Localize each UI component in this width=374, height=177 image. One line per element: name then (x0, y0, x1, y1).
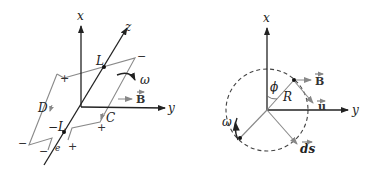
sign-right-lower: + (97, 121, 106, 134)
right-figure: x y ϕ R B u ds ω (222, 11, 359, 156)
z-axis-label: z (124, 20, 132, 34)
sign-top-left: + (60, 72, 69, 85)
x-axis-right-label: x (263, 11, 270, 25)
side-d-label: D (37, 101, 48, 115)
velocity-label: u (318, 100, 326, 113)
y-axis (81, 107, 165, 108)
loop-arrow-d-icon (50, 105, 52, 111)
side-c-label: C (106, 111, 115, 125)
gap-label: e (55, 143, 60, 153)
rotation-arrowhead-icon (231, 121, 240, 132)
y-axis-label: y (167, 101, 175, 115)
figure-canvas: x y z L −L ω B D C e + − − − + + x y (0, 0, 374, 177)
charge-point (292, 78, 296, 82)
y-axis-right-label: y (351, 103, 359, 117)
diagram-svg: x y z L −L ω B D C e + − − − + + x y (0, 0, 374, 177)
radius-line-opposite (240, 110, 267, 138)
field-label: B (136, 93, 145, 106)
omega-label: ω (140, 73, 150, 87)
element-vector-icon (267, 110, 297, 144)
sign-bottom-inner-left: − (39, 145, 48, 158)
angle-label: ϕ (270, 80, 278, 94)
field-label-right: B (315, 75, 324, 88)
sign-bottom-left: − (18, 137, 27, 150)
sign-top-right: − (137, 50, 146, 63)
element-label: ds (300, 142, 315, 156)
velocity-vector-icon (295, 82, 313, 103)
omega-label-right: ω (222, 115, 232, 129)
label-l: L (95, 54, 104, 68)
x-axis-label: x (77, 9, 84, 23)
angle-arc (267, 96, 277, 99)
charge-point-opposite (238, 136, 242, 140)
sign-bottom-right: + (68, 140, 77, 153)
left-figure: x y z L −L ω B D C e + − − − + + (18, 9, 175, 165)
radius-label: R (282, 90, 292, 104)
label-minus-l: −L (48, 120, 66, 134)
